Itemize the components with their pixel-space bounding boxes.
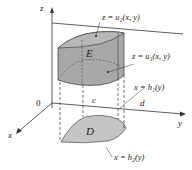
region-d-label: D	[85, 125, 94, 137]
region-diagram: z 0 x y c d E D z = u₂(x, y) z = u₁(x, y…	[0, 0, 192, 170]
solid-e-label: E	[85, 47, 93, 59]
y-axis-final	[52, 103, 183, 114]
z-arrow-icon	[50, 7, 54, 13]
x-axis-label: x	[7, 130, 12, 140]
tick-c-label: c	[92, 95, 96, 105]
y-arrow-icon	[180, 112, 186, 117]
tick-d-label: d	[140, 98, 145, 108]
z-axis-label: z	[39, 3, 44, 13]
upper-surface-label: z = u₂(x, y)	[101, 12, 140, 22]
front-boundary-label: x = h₂(y)	[113, 152, 145, 162]
back-boundary-label: x = h₁(y)	[133, 82, 165, 92]
x-axis	[18, 103, 52, 132]
origin-label: 0	[36, 98, 41, 108]
y-axis-label: y	[177, 118, 182, 128]
lower-surface-label: z = u₁(x, y)	[131, 51, 170, 61]
